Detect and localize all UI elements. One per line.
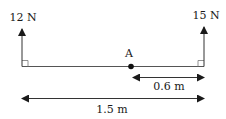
force-label-right: 15 N [192,9,219,22]
point-a-label: A [124,47,134,60]
beam-force-diagram: 12 N 15 N A 0.6 m 1.5 m [0,0,226,119]
dimension-label-1-5m: 1.5 m [96,103,128,116]
right-angle-marker-left [22,61,28,67]
right-angle-marker-right [198,61,204,67]
point-a-dot [128,64,134,70]
dimension-label-0-6m: 0.6 m [153,80,185,93]
force-label-left: 12 N [9,11,36,24]
